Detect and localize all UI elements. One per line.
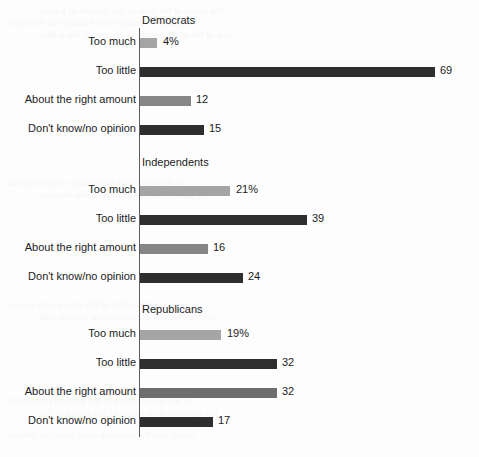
row-label-independents-dont-know: Don't know/no opinion	[0, 270, 136, 282]
bar-republicans-too-little	[140, 359, 277, 369]
bar-value-republicans-too-little: 32	[282, 356, 294, 368]
bar-democrats-about-right	[140, 96, 191, 106]
row-label-democrats-too-little: Too little	[0, 64, 136, 76]
bar-republicans-about-right	[140, 388, 277, 398]
bar-value-independents-dont-know: 24	[248, 270, 260, 282]
row-label-independents-too-little: Too little	[0, 212, 136, 224]
bar-value-democrats-too-much: 4%	[163, 35, 179, 47]
bar-independents-dont-know	[140, 273, 243, 283]
bar-value-republicans-about-right: 32	[282, 385, 294, 397]
bar-value-democrats-too-little: 69	[440, 64, 452, 76]
row-label-democrats-dont-know: Don't know/no opinion	[0, 122, 136, 134]
bar-value-independents-too-much: 21%	[236, 183, 258, 195]
row-label-republicans-too-little: Too little	[0, 356, 136, 368]
bar-independents-too-much	[140, 186, 230, 196]
row-label-republicans-about-right: About the right amount	[0, 385, 136, 397]
row-label-independents-too-much: Too much	[0, 183, 136, 195]
bar-value-independents-about-right: 16	[213, 241, 225, 253]
bar-independents-too-little	[140, 215, 307, 225]
group-title-republicans: Republicans	[142, 303, 203, 315]
row-label-democrats-about-right: About the right amount	[0, 93, 136, 105]
bar-value-republicans-dont-know: 17	[218, 414, 230, 426]
bar-democrats-too-much	[140, 38, 157, 48]
bar-republicans-too-much	[140, 330, 221, 340]
bar-independents-about-right	[140, 244, 208, 254]
chart-container: the same of the year in the second of a …	[0, 0, 479, 457]
bar-value-independents-too-little: 39	[312, 212, 324, 224]
bar-value-republicans-too-much: 19%	[227, 327, 249, 339]
row-label-republicans-dont-know: Don't know/no opinion	[0, 414, 136, 426]
bar-republicans-dont-know	[140, 417, 213, 427]
group-title-independents: Independents	[142, 156, 209, 168]
bar-value-democrats-dont-know: 15	[209, 122, 221, 134]
group-title-democrats: Democrats	[142, 14, 195, 26]
row-label-democrats-too-much: Too much	[0, 35, 136, 47]
bar-democrats-too-little	[140, 67, 435, 77]
bar-democrats-dont-know	[140, 125, 204, 135]
row-label-republicans-too-much: Too much	[0, 327, 136, 339]
bar-value-democrats-about-right: 12	[196, 93, 208, 105]
category-axis-line	[139, 28, 140, 437]
row-label-independents-about-right: About the right amount	[0, 241, 136, 253]
